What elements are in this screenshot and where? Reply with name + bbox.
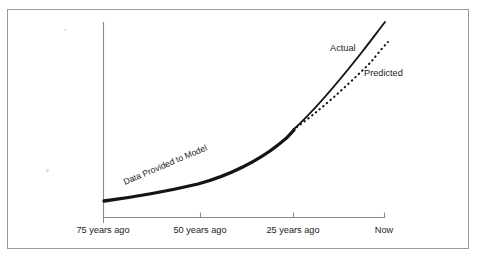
x-tick-label-25-years-ago: 25 years ago: [266, 225, 319, 235]
x-tick-label-now: Now: [375, 225, 394, 235]
x-tick-label-50-years-ago: 50 years ago: [173, 225, 226, 235]
series-label-actual: Actual: [330, 43, 356, 53]
chart-canvas: 75 years ago 50 years ago 25 years ago N…: [0, 0, 477, 258]
series-label-predicted: Predicted: [364, 68, 403, 78]
figure-root: 75 years ago 50 years ago 25 years ago N…: [0, 0, 477, 258]
series-line-data-provided-to-model: [104, 130, 294, 201]
series-label-data-provided-to-model: Data Provided to Model: [122, 143, 209, 187]
x-tick-label-75-years-ago: 75 years ago: [76, 225, 129, 235]
